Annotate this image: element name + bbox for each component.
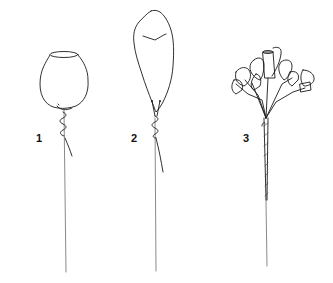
step-label-3: 3 [243, 133, 249, 144]
figure-3-flower-cluster [232, 47, 314, 266]
figure-1-cup-bloom [40, 52, 88, 273]
step-label-2: 2 [131, 133, 137, 144]
step-label-1: 1 [36, 133, 42, 144]
figure-2-wrapped-bud [134, 10, 174, 271]
flower-steps-illustration [0, 0, 333, 283]
